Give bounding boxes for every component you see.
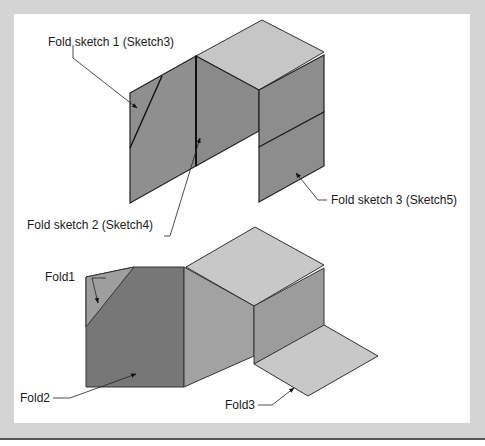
label-fold-sketch-1: Fold sketch 1 (Sketch3) bbox=[48, 35, 174, 49]
bottom-strip bbox=[0, 440, 485, 446]
label-fold3: Fold3 bbox=[225, 398, 255, 412]
bottom-model bbox=[86, 227, 378, 396]
sheet-metal-figure: Fold sketch 1 (Sketch3) Fold sketch 2 (S… bbox=[0, 0, 485, 446]
label-fold2: Fold2 bbox=[20, 391, 50, 405]
label-fold-sketch-3: Fold sketch 3 (Sketch5) bbox=[331, 193, 457, 207]
left-panel bbox=[130, 56, 196, 203]
label-fold1: Fold1 bbox=[45, 270, 75, 284]
label-fold-sketch-2: Fold sketch 2 (Sketch4) bbox=[27, 218, 153, 232]
